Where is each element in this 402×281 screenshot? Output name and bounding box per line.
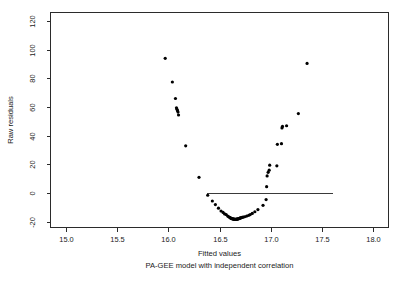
y-axis-title: Raw residuals [6,96,15,144]
scatter-point [174,97,177,100]
scatter-point [297,112,300,115]
scatter-point [256,208,259,211]
scatter-point [268,169,271,172]
scatter-point [281,125,284,128]
x-tick-label: 17.5 [315,235,329,244]
x-tick-label: 17.0 [264,235,278,244]
scatter-point [285,124,288,127]
x-axis-ticks [67,228,374,232]
scatter-point [197,176,200,179]
y-tick-label: 20 [28,160,37,168]
scatter-point [266,174,269,177]
y-tick-label: 60 [28,103,37,111]
scatter-point [217,207,220,210]
x-tick-label: 18.0 [366,235,380,244]
y-tick-label: 100 [28,44,37,56]
scatter-point [275,164,278,167]
scatter-point [214,203,217,206]
y-axis-tick-labels: -20020406080100120 [28,15,37,228]
scatter-point [184,144,187,147]
scatter-point [305,62,308,65]
scatter-point [171,80,174,83]
scatter-point [265,198,268,201]
scatter-point [265,185,268,188]
y-tick-label: 0 [28,191,37,195]
x-tick-label: 15.0 [59,235,73,244]
residual-scatter-plot: -20020406080100120 15.015.516.016.517.01… [0,0,402,281]
scatter-point [176,111,179,114]
scatter-point [253,210,256,213]
x-tick-label: 16.5 [213,235,227,244]
plot-frame [51,13,389,228]
x-axis-tick-labels: 15.015.516.016.517.017.518.0 [59,235,380,244]
scatter-point [164,57,167,60]
x-tick-label: 16.0 [161,235,175,244]
scatter-points-group [164,57,309,221]
scatter-point [276,143,279,146]
x-axis-subtitle: PA-GEE model with independent correlatio… [145,261,293,270]
y-tick-label: 40 [28,132,37,140]
y-tick-label: -20 [28,217,37,228]
y-tick-label: 80 [28,74,37,82]
x-axis-title: Fitted values [198,249,241,258]
y-axis-ticks [47,22,51,223]
x-tick-label: 15.5 [110,235,124,244]
scatter-point [280,142,283,145]
scatter-point [177,113,180,116]
scatter-point [268,164,271,167]
plot-canvas: -20020406080100120 15.015.516.016.517.01… [0,0,402,281]
y-tick-label: 120 [28,15,37,27]
scatter-point [261,204,264,207]
scatter-point [206,194,209,197]
scatter-point [211,199,214,202]
